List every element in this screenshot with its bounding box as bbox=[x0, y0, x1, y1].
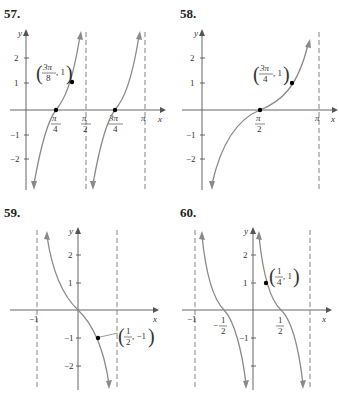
svg-text:y: y bbox=[68, 226, 73, 236]
svg-text:): ) bbox=[283, 63, 290, 86]
svg-text:2: 2 bbox=[221, 326, 226, 336]
x-tick-half: 1 2 bbox=[276, 315, 284, 336]
svg-text:−2: −2 bbox=[64, 361, 74, 371]
svg-text:π: π bbox=[256, 113, 261, 123]
svg-text:−1: −1 bbox=[239, 333, 249, 343]
y-arrow-icon bbox=[23, 29, 29, 36]
svg-text:8: 8 bbox=[46, 73, 51, 83]
svg-text:(: ( bbox=[269, 265, 276, 288]
point-label-half-neg1: ( 1 2 , −1 ) bbox=[118, 325, 155, 348]
svg-text:x: x bbox=[152, 314, 157, 324]
svg-text:π: π bbox=[82, 113, 87, 123]
svg-text:3π: 3π bbox=[259, 63, 270, 73]
svg-text:2: 2 bbox=[190, 53, 195, 63]
y-label: y bbox=[17, 28, 22, 38]
x-arrow-icon bbox=[160, 107, 166, 113]
graph-58: 58. y x 2 1 −1 −2 π 2 π ( 3π 4 , 1 ) bbox=[180, 6, 338, 190]
x-tick-pi: π bbox=[141, 113, 146, 123]
svg-text:y: y bbox=[193, 28, 198, 38]
point-label-3pi-4-1: ( 3π 4 , 1 ) bbox=[253, 63, 290, 86]
svg-text:, 1: , 1 bbox=[283, 271, 292, 281]
svg-text:(: ( bbox=[36, 62, 43, 85]
x-tick-neg1: −1 bbox=[29, 314, 39, 324]
y-tick-1: 1 bbox=[14, 78, 19, 88]
zero-point bbox=[113, 108, 117, 112]
graph-57: 57. y x 2 1 −1 −2 π 4 π 2 3π 4 π bbox=[4, 6, 166, 190]
y-tick-2: 2 bbox=[14, 53, 19, 63]
svg-text:, 1: , 1 bbox=[56, 67, 65, 77]
svg-text:4: 4 bbox=[53, 124, 58, 134]
svg-text:(: ( bbox=[253, 63, 260, 86]
graph-60: 60. y x 2 1 −1 −1 − 1 2 1 2 ( bbox=[180, 205, 332, 390]
svg-text:4: 4 bbox=[113, 124, 118, 134]
figure-canvas: 57. y x 2 1 −1 −2 π 4 π 2 3π 4 π bbox=[0, 0, 339, 400]
x-tick-neg-half: − 1 2 bbox=[213, 315, 227, 336]
y-tick-neg1: −1 bbox=[10, 130, 20, 140]
y-tick-neg2: −2 bbox=[10, 154, 20, 164]
graph-59: 59. y x 2 1 −1 −2 −1 ( 1 2 , −1 ) bbox=[4, 205, 159, 390]
x-tick-pi-2: π 2 bbox=[255, 113, 265, 134]
svg-text:4: 4 bbox=[263, 74, 268, 84]
point-label-quarter-1: ( 1 4 , 1 ) bbox=[269, 265, 300, 288]
svg-text:−2: −2 bbox=[186, 154, 196, 164]
svg-text:1: 1 bbox=[68, 278, 73, 288]
svg-text:x: x bbox=[330, 114, 335, 124]
svg-text:1: 1 bbox=[243, 278, 248, 288]
svg-text:(: ( bbox=[118, 325, 125, 348]
svg-text:): ) bbox=[66, 62, 73, 85]
svg-text:1: 1 bbox=[190, 78, 195, 88]
svg-text:, 1: , 1 bbox=[273, 68, 282, 78]
x-tick-pi-2: π 2 bbox=[81, 113, 91, 134]
svg-text:−1: −1 bbox=[64, 333, 74, 343]
svg-text:2: 2 bbox=[257, 124, 262, 134]
svg-text:4: 4 bbox=[277, 277, 282, 287]
problem-number-58: 58. bbox=[180, 6, 196, 21]
svg-text:): ) bbox=[293, 265, 300, 288]
svg-text:2: 2 bbox=[243, 250, 248, 260]
svg-text:−: − bbox=[213, 320, 218, 330]
svg-text:1: 1 bbox=[221, 315, 226, 325]
problem-number-59: 59. bbox=[4, 205, 20, 220]
svg-text:1: 1 bbox=[278, 315, 283, 325]
svg-text:): ) bbox=[148, 325, 155, 348]
svg-text:3π: 3π bbox=[42, 62, 53, 72]
svg-text:1: 1 bbox=[126, 326, 131, 336]
x-label: x bbox=[157, 114, 162, 124]
svg-text:−1: −1 bbox=[186, 130, 196, 140]
svg-text:x: x bbox=[321, 314, 326, 324]
problem-number-60: 60. bbox=[180, 205, 196, 220]
svg-text:2: 2 bbox=[68, 250, 73, 260]
svg-text:2: 2 bbox=[278, 326, 283, 336]
svg-text:y: y bbox=[243, 226, 248, 236]
svg-text:, −1: , −1 bbox=[132, 331, 146, 341]
svg-text:1: 1 bbox=[277, 266, 282, 276]
point-label-3pi-8-1: ( 3π 8 , 1 ) bbox=[36, 62, 73, 85]
x-tick-3pi-4: 3π 4 bbox=[108, 113, 123, 134]
problem-number-57: 57. bbox=[4, 6, 20, 21]
svg-text:2: 2 bbox=[126, 337, 131, 347]
svg-text:2: 2 bbox=[83, 124, 88, 134]
zero-point bbox=[54, 108, 58, 112]
svg-text:−1: −1 bbox=[187, 314, 197, 324]
x-tick-pi: π bbox=[315, 113, 320, 123]
